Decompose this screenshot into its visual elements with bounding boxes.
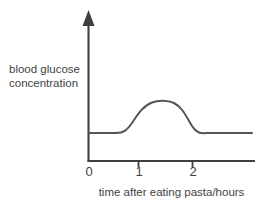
x-axis-tick-label-1: 1 xyxy=(129,165,149,178)
y-axis-label-line-1: blood glucose xyxy=(9,62,85,76)
blood-glucose-chart-figure: blood glucose concentration 0 1 2 time a… xyxy=(0,0,265,208)
y-axis-label: blood glucose concentration xyxy=(9,62,85,90)
x-axis-label: time after eating pasta/hours xyxy=(88,185,255,199)
y-axis-arrow-icon xyxy=(83,10,95,26)
x-axis-tick-label-0: 0 xyxy=(79,165,99,178)
x-axis-tick-label-2: 2 xyxy=(183,165,203,178)
y-axis-label-line-2: concentration xyxy=(9,76,85,90)
glucose-concentration-curve xyxy=(89,101,252,134)
